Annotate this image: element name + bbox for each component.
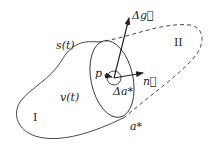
volume-label: v(t) (60, 92, 79, 103)
control-volume-diagram: s(t) v(t) I II p Δa* a* Δg⃗ n⃗ (0, 0, 212, 151)
normal-vector-label: n⃗ (143, 76, 157, 87)
flux-vector-label: Δg⃗ (132, 10, 154, 21)
point-label: p (95, 68, 102, 79)
normal-vector-arrow (114, 73, 143, 78)
region-one-label: I (33, 112, 37, 123)
area-element-label: Δa* (113, 86, 133, 97)
flux-vector-arrow (114, 18, 129, 78)
interface-label: a* (130, 121, 142, 132)
diagram-graphics (0, 0, 212, 151)
region-two-label: II (174, 37, 183, 48)
surface-label: s(t) (56, 40, 75, 51)
interface-ellipse (83, 36, 140, 121)
